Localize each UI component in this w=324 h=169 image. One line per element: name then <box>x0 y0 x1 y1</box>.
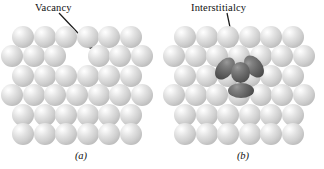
caption-b: (b) <box>162 150 324 161</box>
lattice-atom <box>174 123 196 145</box>
lattice-atom <box>88 84 110 106</box>
lattice-atom <box>282 123 304 145</box>
lattice-atom <box>34 123 56 145</box>
lattice-atom <box>88 45 110 67</box>
lattice-atom <box>239 123 261 145</box>
lattice-atom <box>131 84 153 106</box>
caption-a: (a) <box>0 150 162 161</box>
lattice-atom <box>196 123 218 145</box>
panel-interstitialcy: Interstitialcy (b) <box>162 0 324 169</box>
lattice-atom <box>77 123 99 145</box>
interstitial-atom-bottom <box>228 83 254 98</box>
vacancy-label: Vacancy <box>35 2 72 13</box>
figure-point-defects: Vacancy (a) Interstitialcy (b) <box>0 0 324 169</box>
lattice-atom <box>23 84 45 106</box>
lattice-atom <box>12 123 34 145</box>
lattice-atom <box>120 123 142 145</box>
panel-vacancy: Vacancy (a) <box>0 0 162 169</box>
interstitial-atom-center <box>231 62 250 83</box>
